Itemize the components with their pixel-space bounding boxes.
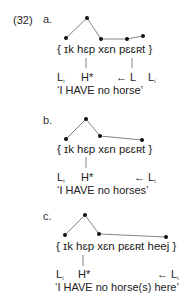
panel-a-tone-accent: H* bbox=[81, 71, 93, 83]
panel-b-tone-accent: H* bbox=[81, 171, 93, 183]
panel-c-label: c. bbox=[43, 210, 52, 222]
panel-b-label: b. bbox=[43, 114, 52, 126]
panel-c-tone-accent: H* bbox=[78, 268, 90, 280]
contour-a bbox=[66, 18, 143, 39]
example-number: (32) bbox=[13, 14, 33, 26]
panel-a-label: a. bbox=[43, 13, 52, 25]
contour-c bbox=[65, 215, 166, 237]
panel-c-segments: { ɪk hɛp xɛn pɛɛʀt heej } bbox=[56, 240, 176, 252]
contour-b bbox=[66, 119, 142, 140]
panel-b-segments: { ɪk hɛp xɛn pɛɛʀt } bbox=[57, 143, 152, 155]
panel-a-tone-right: Li bbox=[148, 71, 155, 87]
panel-a-gloss: ‘I HAVE no horse’ bbox=[57, 84, 143, 96]
panel-a-tone-mid: ← L bbox=[116, 71, 136, 83]
panel-a-segments: { ɪk hɛp xɛn pɛɛʀt } bbox=[57, 43, 152, 55]
panel-c-gloss: ‘I HAVE no horse(s) here’ bbox=[55, 281, 179, 293]
panel-b-gloss: ‘I HAVE no horses’ bbox=[57, 184, 149, 196]
